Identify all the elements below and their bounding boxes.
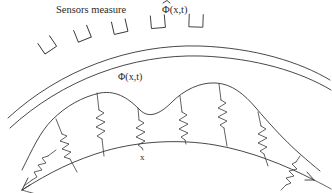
base-axis-curve: [22, 142, 314, 190]
spring-6: [218, 84, 227, 146]
shell-arc-inner: [10, 56, 331, 128]
spring-3: [96, 93, 105, 156]
sensor-2[interactable]: [74, 25, 92, 42]
title-symbol: Φ(x,t): [162, 4, 188, 16]
base-tail-right: [314, 180, 331, 189]
spring-5: [179, 96, 188, 144]
title-symbol-group: Φ(x,t): [162, 1, 188, 17]
axis-label: x: [140, 152, 145, 162]
hat-accent-icon: [163, 1, 170, 4]
page-title: Sensors measure: [56, 4, 127, 15]
field-label: Φ(x,t): [118, 71, 142, 83]
sensor-3[interactable]: [111, 19, 128, 35]
spring-connectors: [24, 84, 300, 190]
diagram-canvas: Sensors measure Φ(x,t) Φ(x,t) x: [0, 0, 332, 193]
spring-8: [281, 156, 300, 190]
sensor-4[interactable]: [150, 14, 165, 28]
base-tail-left: [22, 190, 44, 193]
spring-2: [56, 119, 77, 172]
sensor-5[interactable]: [189, 14, 203, 27]
sensor-1[interactable]: [38, 35, 57, 54]
base-axis-path: [22, 142, 314, 190]
figure-root: Sensors measure Φ(x,t) Φ(x,t) x: [0, 0, 332, 193]
sensor-array: [38, 14, 204, 54]
